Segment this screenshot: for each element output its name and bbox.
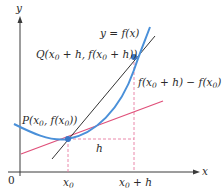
dashed-guides (68, 57, 134, 172)
curve-equation-label: y = f(x) (99, 27, 139, 39)
x-axis-arrow-icon (193, 170, 200, 175)
axes (8, 16, 200, 176)
run-label: h (96, 142, 103, 154)
y-axis-label: y (15, 2, 23, 14)
point-q-label: Q(x0 + h, f(x0 + h)) (36, 48, 137, 62)
rise-label: f(x0 + h) − f(x0) (137, 76, 221, 90)
x0h-tick-label: x0 + h (119, 176, 152, 190)
secant-diagram: y x 0 x0 x0 + h y = f(x) Q(x0 + h, f(x0 … (0, 0, 224, 195)
origin-label: 0 (8, 174, 15, 186)
x0-tick-label: x0 (63, 176, 74, 190)
x-axis-label: x (202, 165, 208, 177)
point-p (65, 136, 71, 142)
y-axis-arrow-icon (18, 16, 23, 23)
point-p-label: P(x0, f(x0)) (21, 114, 77, 128)
